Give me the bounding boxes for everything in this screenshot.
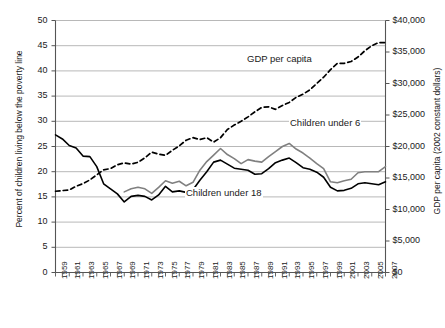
series-label-children-under-6: Children under 6 xyxy=(289,117,361,128)
series-label-gdp-per-capita: GDP per capita xyxy=(246,53,313,64)
gridlines xyxy=(56,21,386,273)
plot-area xyxy=(0,0,445,328)
series-label-children-under-18: Children under 18 xyxy=(185,187,263,198)
chart-container: Percent of children living below the pov… xyxy=(0,0,445,328)
